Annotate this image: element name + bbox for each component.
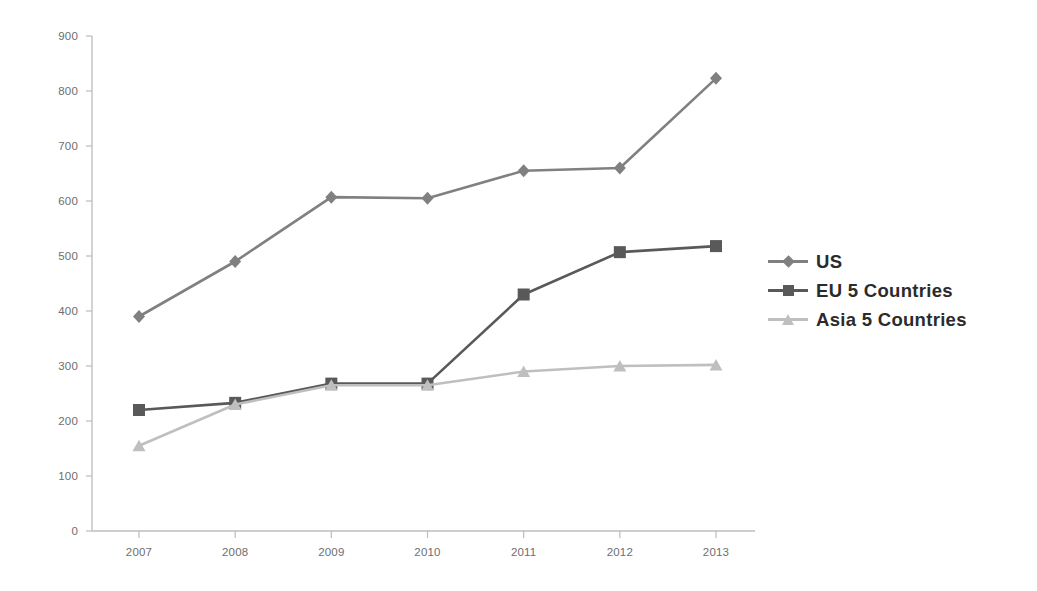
- legend-item-us[interactable]: US: [766, 247, 1016, 276]
- y-tick-label: 500: [58, 250, 78, 262]
- y-tick-label: 800: [58, 85, 78, 97]
- data-point-marker-square: [614, 246, 626, 258]
- legend-label: EU 5 Countries: [816, 280, 953, 302]
- legend-label: US: [816, 251, 842, 273]
- data-point-marker-triangle: [133, 440, 146, 452]
- y-tick-label: 400: [58, 305, 78, 317]
- x-tick-label: 2009: [318, 546, 344, 558]
- x-axis-ticks: 2007200820092010201120122013: [126, 531, 729, 558]
- series-us: [133, 72, 722, 323]
- data-point-marker-diamond: [229, 255, 241, 268]
- legend-marker-square-icon: [766, 282, 810, 300]
- y-tick-label: 200: [58, 415, 78, 427]
- legend-item-eu-5-countries[interactable]: EU 5 Countries: [766, 276, 1016, 305]
- series-layer: [133, 72, 723, 451]
- x-tick-label: 2012: [607, 546, 633, 558]
- data-point-marker-square: [518, 289, 530, 301]
- x-axis: 2007200820092010201120122013: [92, 531, 755, 558]
- y-tick-label: 900: [58, 30, 78, 42]
- data-point-marker-diamond: [133, 310, 145, 323]
- y-tick-label: 0: [71, 525, 78, 537]
- y-tick-label: 700: [58, 140, 78, 152]
- line-chart: 0100200300400500600700800900 20072008200…: [0, 0, 1037, 591]
- legend-label: Asia 5 Countries: [816, 309, 967, 331]
- x-tick-label: 2008: [222, 546, 248, 558]
- y-tick-label: 300: [58, 360, 78, 372]
- legend-marker-triangle-icon: [766, 311, 810, 329]
- data-point-marker-square: [710, 240, 722, 252]
- data-point-marker-diamond: [325, 191, 337, 204]
- y-tick-label: 600: [58, 195, 78, 207]
- y-axis: 0100200300400500600700800900: [58, 30, 92, 537]
- data-point-marker-diamond: [422, 192, 434, 205]
- series-line: [139, 365, 716, 446]
- y-axis-ticks: 0100200300400500600700800900: [58, 30, 92, 537]
- data-point-marker-diamond: [518, 164, 530, 177]
- legend-item-asia-5-countries[interactable]: Asia 5 Countries: [766, 305, 1016, 334]
- x-tick-label: 2007: [126, 546, 152, 558]
- legend-marker-diamond-icon: [766, 253, 810, 271]
- data-point-marker-square: [133, 404, 145, 416]
- x-tick-label: 2010: [414, 546, 440, 558]
- x-tick-label: 2011: [511, 546, 537, 558]
- chart-legend: US EU 5 Countries Asia 5 Countries: [766, 247, 1016, 334]
- x-tick-label: 2013: [703, 546, 729, 558]
- y-tick-label: 100: [58, 470, 78, 482]
